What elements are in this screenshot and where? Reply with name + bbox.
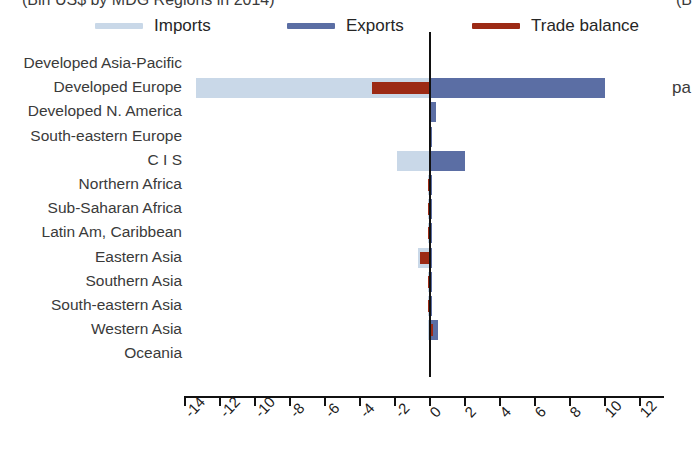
- x-axis-tick-label: 2: [461, 403, 479, 421]
- bar-row: [0, 99, 698, 125]
- legend-item-exports: Exports: [287, 13, 404, 39]
- bar-exports: [430, 78, 605, 98]
- chart-legend: Imports Exports Trade balance: [0, 13, 698, 39]
- legend-swatch-imports: [95, 23, 143, 29]
- bar-row: [0, 148, 698, 174]
- legend-label-trade-balance: Trade balance: [531, 13, 639, 39]
- legend-label-exports: Exports: [346, 13, 404, 39]
- bar-row: [0, 75, 698, 101]
- bar-row: [0, 317, 698, 343]
- chart-root: (Bln US$ by MDG Regions in 2014) (B Impo…: [0, 0, 698, 456]
- chart-title: (Bln US$ by MDG Regions in 2014): [22, 0, 275, 9]
- plot-area: Developed Asia-PacificDeveloped EuropeDe…: [0, 50, 698, 398]
- bar-row: [0, 269, 698, 295]
- bar-row: [0, 172, 698, 198]
- legend-item-imports: Imports: [95, 13, 211, 39]
- x-axis-tick-label: 0: [426, 403, 444, 421]
- chart-title-clip: (Bln US$ by MDG Regions in 2014) (B: [0, 0, 698, 13]
- legend-swatch-trade-balance: [472, 23, 520, 29]
- bar-row: [0, 124, 698, 150]
- legend-swatch-exports: [287, 23, 335, 29]
- bar-exports: [430, 151, 465, 171]
- x-axis-line: [185, 396, 664, 398]
- legend-label-imports: Imports: [154, 13, 211, 39]
- bar-row: [0, 196, 698, 222]
- x-axis-tick-label: 6: [531, 403, 549, 421]
- bar-row: [0, 341, 698, 367]
- x-axis: -14-12-10-8-6-4-2024681012: [0, 396, 698, 456]
- bar-row: [0, 220, 698, 246]
- bar-row: [0, 293, 698, 319]
- zero-line: [429, 32, 431, 377]
- bars-layer: [0, 50, 698, 388]
- legend-item-trade-balance: Trade balance: [472, 13, 639, 39]
- bar-imports: [397, 151, 430, 171]
- bar-row: [0, 51, 698, 77]
- bar-row: [0, 245, 698, 271]
- x-axis-tick-label: 4: [496, 403, 514, 421]
- chart-title-right-fragment: (B: [676, 0, 692, 9]
- bar-trade-balance: [372, 82, 430, 94]
- x-axis-tick-label: 8: [566, 403, 584, 421]
